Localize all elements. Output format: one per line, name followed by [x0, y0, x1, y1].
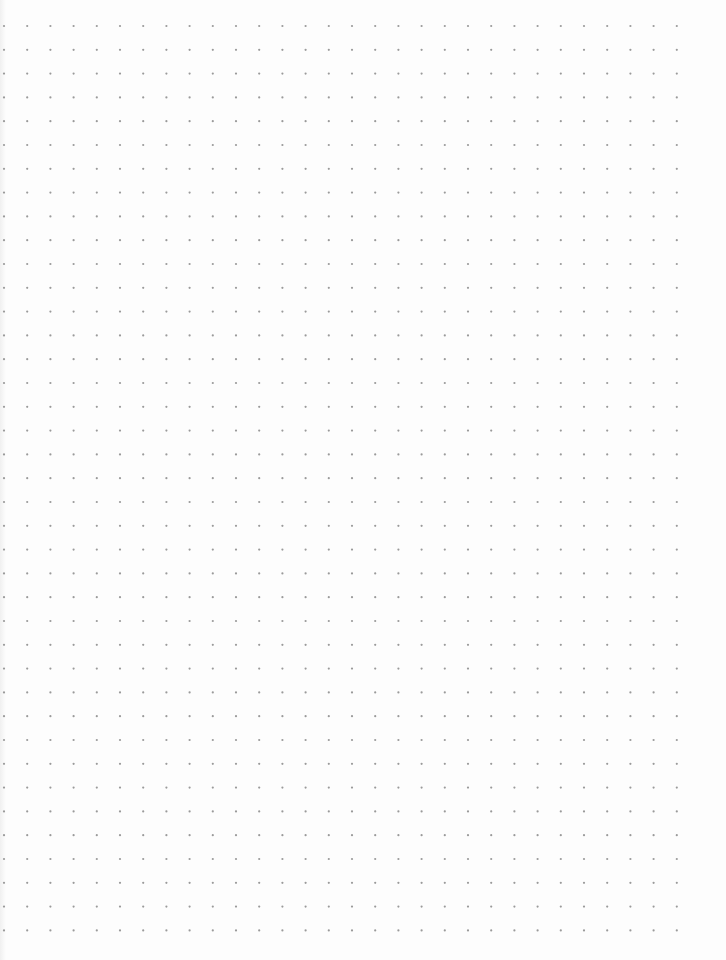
grid-dot [444, 406, 446, 408]
grid-dot [328, 73, 330, 75]
grid-dot [676, 168, 678, 170]
grid-dot [490, 239, 492, 241]
grid-dot [421, 406, 423, 408]
grid-dot [421, 834, 423, 836]
grid-dot [142, 620, 144, 622]
grid-dot [281, 453, 283, 455]
grid-dot [119, 882, 121, 884]
grid-dot [73, 168, 75, 170]
grid-dot [606, 239, 608, 241]
grid-dot [583, 430, 585, 432]
grid-dot [189, 120, 191, 122]
grid-dot [3, 929, 5, 931]
grid-dot [3, 525, 5, 527]
grid-dot [3, 239, 5, 241]
grid-dot [3, 406, 5, 408]
grid-dot [560, 763, 562, 765]
grid-dot [3, 549, 5, 551]
grid-dot [351, 596, 353, 598]
grid-dot [96, 120, 98, 122]
grid-dot [421, 287, 423, 289]
grid-dot [258, 382, 260, 384]
grid-dot [583, 263, 585, 265]
grid-dot [490, 358, 492, 360]
grid-dot [165, 549, 167, 551]
grid-dot [212, 144, 214, 146]
grid-dot [560, 430, 562, 432]
grid-dot [606, 25, 608, 27]
grid-dot [444, 929, 446, 931]
grid-dot [142, 715, 144, 717]
grid-dot [537, 453, 539, 455]
grid-dot [490, 882, 492, 884]
grid-dot [560, 382, 562, 384]
grid-dot [560, 168, 562, 170]
grid-dot [513, 96, 515, 98]
grid-dot [142, 691, 144, 693]
grid-dot [351, 572, 353, 574]
grid-dot [444, 120, 446, 122]
grid-dot [3, 192, 5, 194]
grid-dot [629, 382, 631, 384]
grid-dot [212, 358, 214, 360]
grid-dot [235, 834, 237, 836]
grid-dot [26, 763, 28, 765]
grid-dot [49, 453, 51, 455]
grid-dot [119, 192, 121, 194]
grid-dot [653, 810, 655, 812]
grid-dot [629, 334, 631, 336]
grid-dot [96, 501, 98, 503]
grid-dot [606, 882, 608, 884]
grid-dot [142, 382, 144, 384]
grid-dot [165, 787, 167, 789]
grid-dot [73, 810, 75, 812]
grid-dot [3, 644, 5, 646]
grid-dot [328, 168, 330, 170]
grid-dot [119, 858, 121, 860]
grid-dot [165, 763, 167, 765]
grid-dot [281, 810, 283, 812]
grid-dot [96, 715, 98, 717]
grid-dot [490, 73, 492, 75]
grid-dot [26, 882, 28, 884]
grid-dot [119, 73, 121, 75]
grid-dot [513, 572, 515, 574]
grid-dot [73, 620, 75, 622]
grid-dot [676, 477, 678, 479]
grid-dot [73, 120, 75, 122]
grid-dot [96, 382, 98, 384]
grid-dot [537, 287, 539, 289]
grid-dot [3, 501, 5, 503]
grid-dot [397, 49, 399, 51]
grid-dot [49, 96, 51, 98]
grid-dot [258, 311, 260, 313]
grid-dot [629, 120, 631, 122]
grid-dot [281, 25, 283, 27]
grid-dot [119, 906, 121, 908]
grid-dot [3, 596, 5, 598]
grid-dot [513, 239, 515, 241]
grid-dot [142, 572, 144, 574]
grid-dot [258, 858, 260, 860]
grid-dot [583, 73, 585, 75]
grid-dot [421, 477, 423, 479]
grid-dot [165, 715, 167, 717]
grid-dot [421, 620, 423, 622]
grid-dot [583, 549, 585, 551]
grid-dot [537, 358, 539, 360]
grid-dot [3, 263, 5, 265]
grid-dot [119, 477, 121, 479]
grid-dot [73, 882, 75, 884]
grid-dot [351, 929, 353, 931]
grid-dot [142, 810, 144, 812]
grid-dot [212, 810, 214, 812]
grid-dot [26, 73, 28, 75]
grid-dot [421, 858, 423, 860]
grid-dot [328, 929, 330, 931]
grid-dot [653, 549, 655, 551]
grid-dot [653, 572, 655, 574]
grid-dot [119, 406, 121, 408]
grid-dot [421, 810, 423, 812]
grid-dot [328, 715, 330, 717]
grid-dot [490, 739, 492, 741]
